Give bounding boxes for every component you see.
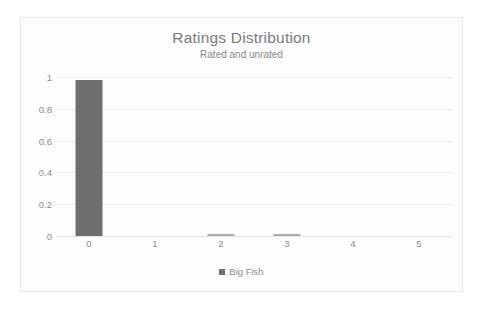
chart-legend[interactable]: Big Fish: [21, 266, 462, 277]
chart-title-block: Ratings Distribution Rated and unrated: [21, 28, 462, 62]
y-axis-tick-label: 0: [47, 231, 52, 242]
plot-area: [56, 77, 452, 236]
chart-subtitle: Rated and unrated: [21, 48, 462, 62]
axis-line-zero: [56, 236, 452, 237]
x-axis-tick-label: 5: [416, 238, 421, 249]
bar-series-big-fish: [56, 77, 452, 236]
bar-slot: [320, 77, 386, 236]
x-axis-tick-label: 0: [86, 238, 91, 249]
x-axis-tick-label: 2: [218, 238, 223, 249]
x-axis-tick-label: 1: [152, 238, 157, 249]
bar[interactable]: [208, 234, 235, 236]
bar[interactable]: [76, 80, 103, 236]
chart-container[interactable]: Ratings Distribution Rated and unrated 0…: [20, 17, 463, 292]
y-axis-tick-labels: 00.20.40.60.81: [21, 77, 52, 236]
legend-square-marker-icon: [219, 269, 225, 275]
bar-slot: [386, 77, 452, 236]
bar-slot: [254, 77, 320, 236]
bar-slot: [56, 77, 122, 236]
chart-title: Ratings Distribution: [21, 28, 462, 47]
y-axis-tick-label: 0.4: [39, 167, 52, 178]
bar-slot: [188, 77, 254, 236]
legend-item-label: Big Fish: [229, 266, 263, 277]
y-axis-tick-label: 1: [47, 72, 52, 83]
y-axis-tick-label: 0.6: [39, 135, 52, 146]
x-axis-tick-label: 3: [284, 238, 289, 249]
bar[interactable]: [274, 234, 301, 236]
y-axis-tick-label: 0.8: [39, 103, 52, 114]
x-axis-tick-labels: 012345: [56, 238, 452, 254]
bar-slot: [122, 77, 188, 236]
x-axis-tick-label: 4: [350, 238, 355, 249]
y-axis-tick-label: 0.2: [39, 199, 52, 210]
